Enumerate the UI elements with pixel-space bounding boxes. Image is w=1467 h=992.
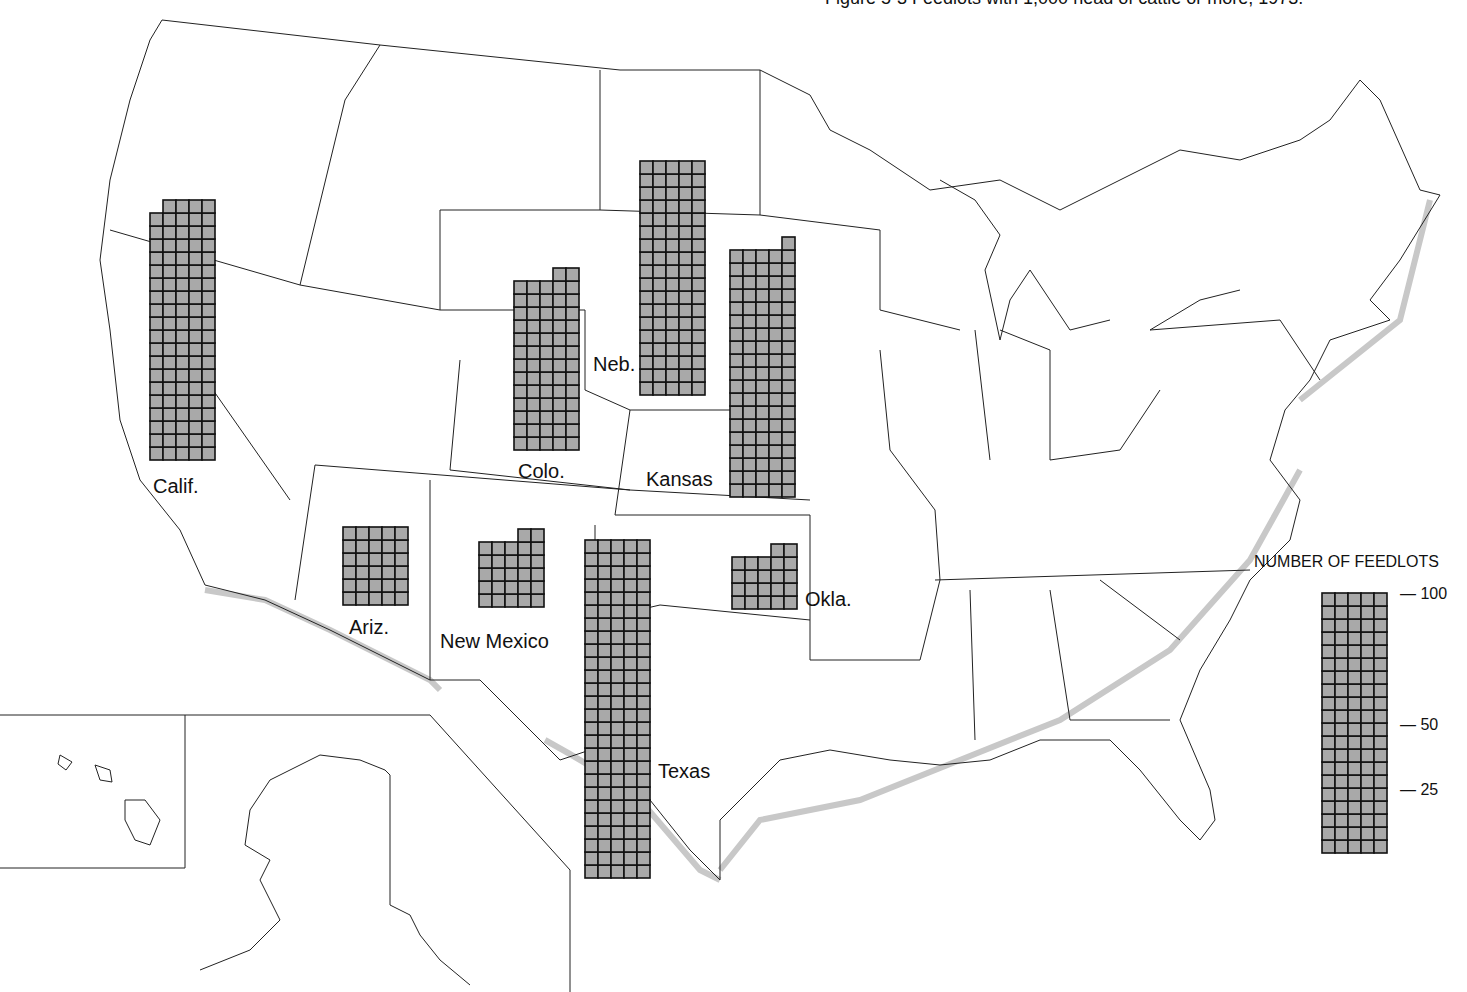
- label-new-mexico: New Mexico: [440, 630, 549, 653]
- legend-tick-50: — 50: [1400, 716, 1438, 734]
- label-nebraska: Neb.: [593, 353, 635, 376]
- label-texas: Texas: [658, 760, 710, 783]
- pictogram-ariz: [343, 527, 408, 605]
- pictogram-texas: [585, 540, 650, 878]
- pictogram-kansas: [730, 237, 795, 497]
- label-oklahoma: Okla.: [805, 588, 852, 611]
- pictogram-neb: [640, 161, 705, 395]
- legend-tick-100: — 100: [1400, 585, 1447, 603]
- great-lakes: [940, 180, 1240, 340]
- legend-title: NUMBER OF FEEDLOTS: [1254, 553, 1439, 571]
- figure-title: Figure 5-3 Feedlots with 1,000 head of c…: [825, 0, 1303, 9]
- legend-tick-25: — 25: [1400, 781, 1438, 799]
- pictogram-calif: [150, 200, 215, 460]
- hawaii: [58, 755, 160, 845]
- inset-frame: [0, 715, 570, 992]
- label-arizona: Ariz.: [349, 616, 389, 639]
- state-boundaries: [110, 45, 1320, 740]
- pictogram-okla: [732, 544, 797, 609]
- label-california: Calif.: [153, 475, 199, 498]
- pictogram-new-mexico: [479, 529, 544, 607]
- legend-pictogram: [1322, 593, 1387, 853]
- label-colorado: Colo.: [518, 460, 565, 483]
- us-map: [0, 0, 1467, 992]
- label-kansas: Kansas: [646, 468, 713, 491]
- pictogram-colo: [514, 268, 579, 450]
- alaska: [200, 755, 470, 985]
